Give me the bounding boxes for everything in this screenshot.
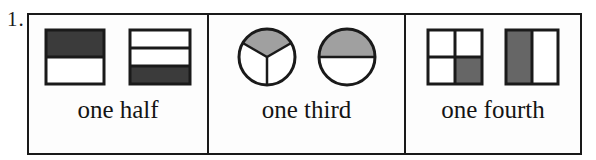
fraction-table: one half: [27, 13, 582, 155]
fraction-label-one-half: one half: [77, 97, 158, 122]
square-halves-vertical-figure: [504, 28, 560, 86]
fraction-label-one-fourth: one fourth: [441, 97, 544, 122]
label-row: one half: [29, 95, 207, 153]
figures-row: [209, 15, 404, 95]
circle-thirds-figure: [236, 26, 298, 88]
label-row: one third: [209, 95, 404, 153]
fraction-cell-one-half: one half: [29, 15, 209, 153]
worksheet-item: 1. one half: [0, 0, 596, 160]
square-quarters-grid-figure: [426, 28, 484, 86]
figures-row: [406, 15, 580, 95]
fraction-cell-one-third: one third: [209, 15, 406, 153]
circle-halves-figure: [316, 26, 378, 88]
square-thirds-horizontal-figure: [128, 28, 192, 86]
fraction-label-one-third: one third: [262, 97, 352, 122]
fraction-cell-one-fourth: one fourth: [406, 15, 580, 153]
problem-number: 1.: [7, 9, 25, 30]
label-row: one fourth: [406, 95, 580, 153]
square-halves-horizontal-figure: [44, 28, 106, 86]
figures-row: [29, 15, 207, 95]
